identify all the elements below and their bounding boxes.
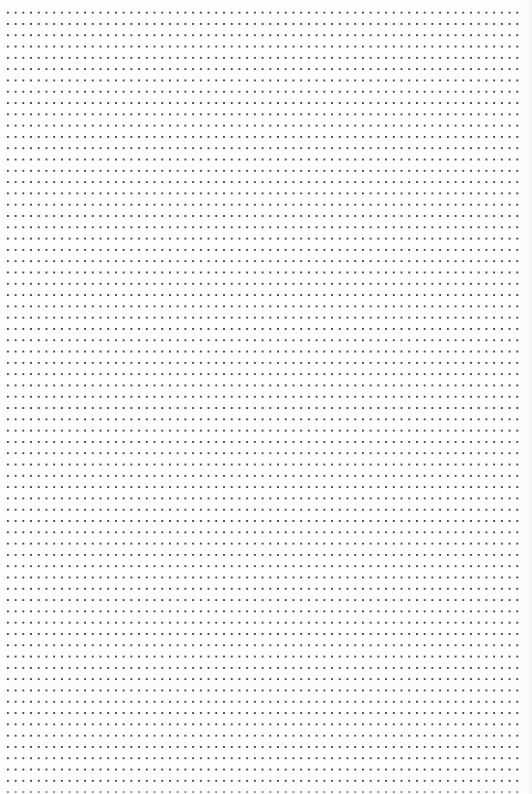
dot-grid-sheet [0,0,532,794]
dot-grid-pattern [4,7,521,794]
bottom-edge-fade [0,788,532,794]
right-edge-shadow [526,0,532,794]
